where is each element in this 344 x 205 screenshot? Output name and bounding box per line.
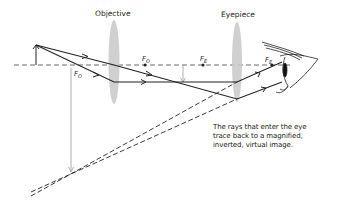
virtual-trace-2 xyxy=(31,99,237,192)
ray-2 xyxy=(36,45,282,82)
caption-line: trace back to a magnified, xyxy=(213,132,343,141)
fo-left-label: FO xyxy=(74,70,82,79)
fo-right-label: FO xyxy=(142,55,150,64)
eyepiece-lens xyxy=(232,22,242,102)
ray-1-arrow2-icon xyxy=(146,71,152,76)
focal-point-objective-right xyxy=(144,64,147,67)
compound-microscope-ray-diagram: Objective Eyepiece FO FO FE FE xyxy=(0,0,344,205)
objective-lens xyxy=(109,20,120,104)
objective-label: Objective xyxy=(95,9,131,18)
fe-left-label: FE xyxy=(200,55,208,64)
focal-point-eyepiece-left xyxy=(202,64,205,67)
caption-line: The rays that enter the eye xyxy=(213,123,343,132)
caption-line: inverted, virtual image. xyxy=(213,141,343,150)
ray-1 xyxy=(36,45,282,99)
ray-2-arrow3-icon xyxy=(255,72,260,77)
caption-note: The rays that enter the eye trace back t… xyxy=(213,123,343,150)
ray-2-arrow-icon xyxy=(93,72,99,77)
virtual-trace-1 xyxy=(31,82,237,196)
fe-right-label: FE xyxy=(265,56,273,65)
eyepiece-label: Eyepiece xyxy=(221,10,255,19)
